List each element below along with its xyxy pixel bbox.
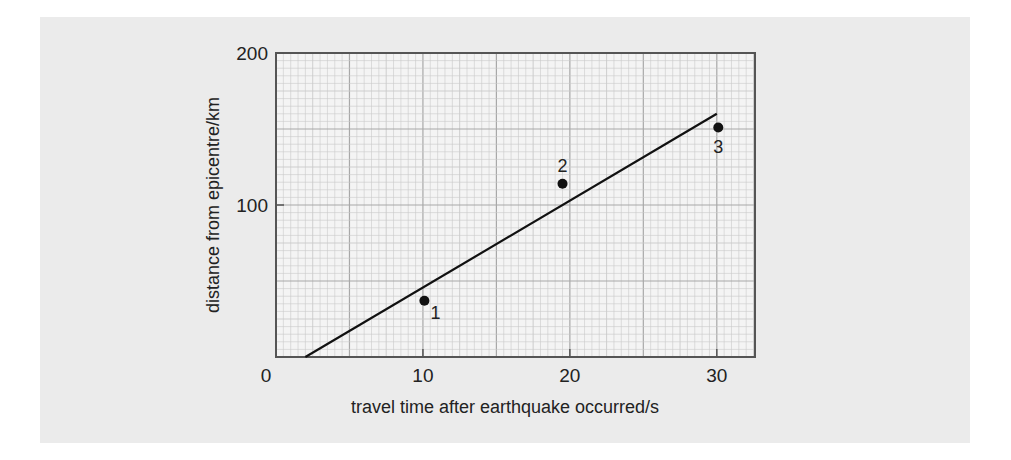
graph-paper-grid [276,53,755,357]
data-point-label: 3 [713,137,723,157]
x-tick-label: 10 [412,365,433,386]
data-point-3 [713,122,723,132]
chart: 100200 0102030 123 travel time after ear… [0,0,1011,460]
x-tick-label: 30 [706,365,727,386]
x-tick-label: 0 [261,365,272,386]
data-point-2 [558,179,568,189]
data-point-label: 1 [430,303,440,323]
x-tick-label: 20 [559,365,580,386]
data-point-label: 2 [558,156,568,176]
y-tick-label: 100 [236,195,268,216]
y-tick-label: 200 [236,43,268,64]
y-axis-title: distance from epicentre/km [203,97,223,313]
x-axis-title: travel time after earthquake occurred/s [351,397,659,417]
data-point-1 [419,296,429,306]
